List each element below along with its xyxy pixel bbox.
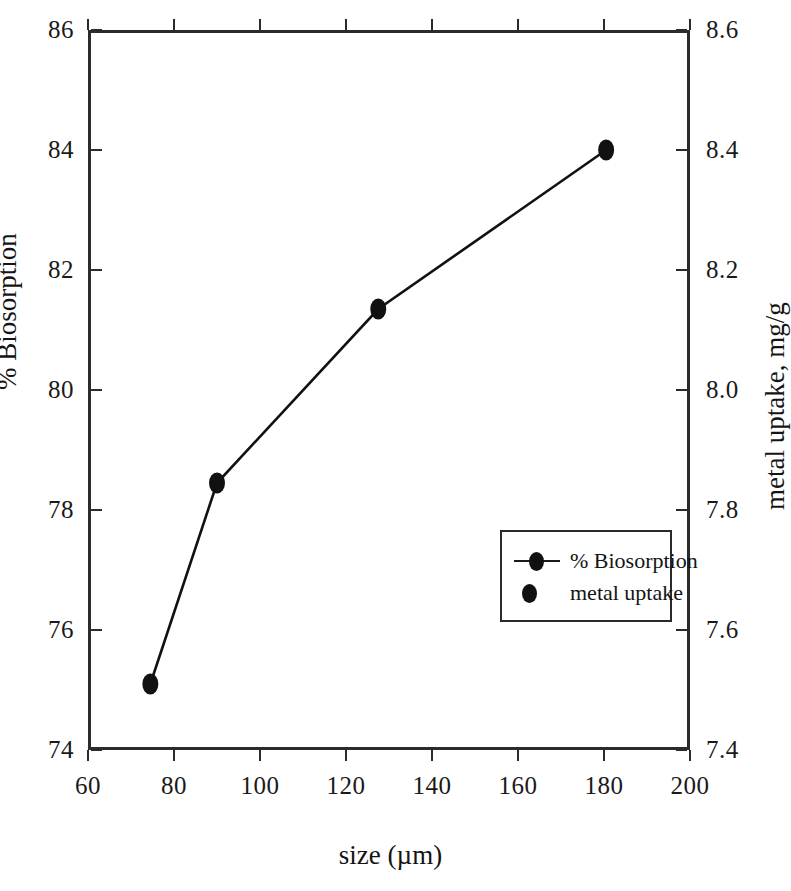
y-axis-right-tick-label: 8.2: [706, 256, 739, 284]
x-axis-tick-label: 60: [75, 772, 101, 800]
x-axis-tick-label: 180: [585, 772, 624, 800]
y-axis-right-tick-label: 7.4: [706, 736, 739, 764]
x-axis-tick-label: 140: [413, 772, 452, 800]
y-axis-right-tick-label: 8.6: [706, 16, 739, 44]
x-axis-tick-top: [431, 19, 433, 30]
x-axis-title: size (µm): [0, 840, 781, 871]
y-axis-right-tick-label: 8.4: [706, 136, 739, 164]
x-axis-tick-label: 200: [671, 772, 710, 800]
y-axis-right-title: metal uptake, mg/g: [760, 302, 791, 510]
x-axis-tick: [345, 750, 347, 761]
y-axis-left-tick-label: 80: [48, 376, 74, 404]
x-axis-tick-label: 100: [241, 772, 280, 800]
data-series-layer: [88, 30, 690, 750]
x-axis-tick: [87, 750, 89, 761]
legend-label-metal-uptake: metal uptake: [570, 580, 683, 606]
x-axis-tick: [259, 750, 261, 761]
y-axis-left-title: % Biosorption: [0, 233, 23, 390]
y-axis-right-tick-label: 8.0: [706, 376, 739, 404]
legend-item-metal-uptake: metal uptake: [512, 578, 683, 608]
x-axis-tick-top: [87, 19, 89, 30]
legend-key-marker-icon: [512, 582, 564, 604]
x-axis-tick: [173, 750, 175, 761]
x-axis-tick: [431, 750, 433, 761]
y-axis-left-tick-label: 74: [48, 736, 74, 764]
data-point-marker: [142, 674, 158, 695]
y-axis-left-tick-label: 78: [48, 496, 74, 524]
y-axis-left-tick-label: 84: [48, 136, 74, 164]
y-axis-left-tick-label: 86: [48, 16, 74, 44]
x-axis-tick: [689, 750, 691, 761]
legend-item-biosorption: % Biosorption: [512, 546, 698, 576]
data-point-marker: [370, 299, 386, 320]
x-axis-tick: [603, 750, 605, 761]
y-axis-right-tick-label: 7.6: [706, 616, 739, 644]
x-axis-tick-top: [517, 19, 519, 30]
y-axis-left-tick-label: 76: [48, 616, 74, 644]
x-axis-tick-label: 80: [161, 772, 187, 800]
legend-key-line-marker-icon: [512, 550, 564, 572]
x-axis-tick-label: 120: [327, 772, 366, 800]
plot-area: [88, 30, 690, 750]
x-axis-tick-top: [345, 19, 347, 30]
legend-label-biosorption: % Biosorption: [570, 548, 698, 574]
chart-legend: % Biosorption metal uptake: [500, 530, 672, 622]
x-axis-tick-top: [259, 19, 261, 30]
x-axis-tick: [517, 750, 519, 761]
y-axis-left-tick-label: 82: [48, 256, 74, 284]
x-axis-tick-top: [603, 19, 605, 30]
x-axis-tick-top: [173, 19, 175, 30]
x-axis-tick-top: [689, 19, 691, 30]
y-axis-right-tick-label: 7.8: [706, 496, 739, 524]
data-point-marker: [598, 140, 614, 161]
data-point-marker: [209, 473, 225, 494]
x-axis-tick-label: 160: [499, 772, 538, 800]
